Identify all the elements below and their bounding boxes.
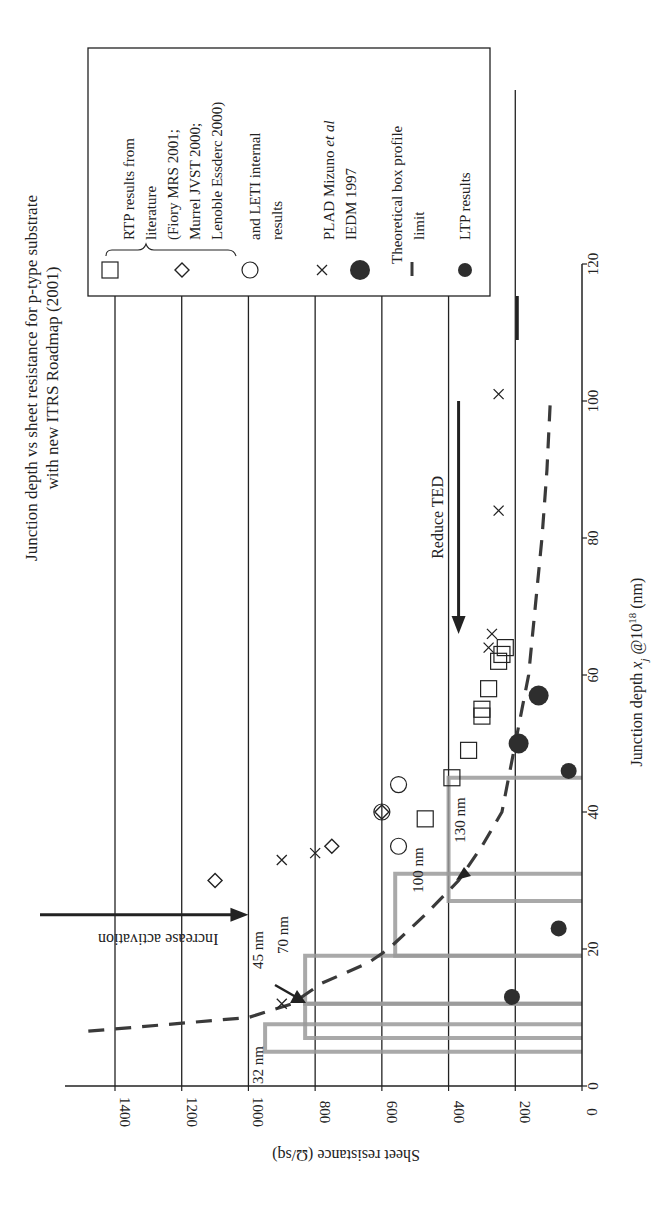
- resistance-tick-label: 1400: [117, 1097, 133, 1127]
- label-part: 18: [626, 612, 638, 624]
- resistance-axis-label: Sheet resistance (Ω/sq): [272, 1146, 420, 1164]
- resistance-tick-label: 600: [384, 1101, 400, 1124]
- axes: 0200400600800100012001400020406080100120…: [65, 253, 650, 1164]
- legend-box: [88, 48, 490, 296]
- arrowhead-icon: [230, 908, 248, 922]
- legend-text: Theoretical box profile: [389, 125, 405, 264]
- box-label: 32 nm: [250, 1046, 266, 1084]
- filled-circle-large-marker: [529, 686, 549, 706]
- itrs-box-profiles: 32 nm45 nm70 nm100 nm130 nm: [250, 778, 582, 1084]
- cross-marker: [487, 629, 497, 639]
- diamond-marker: [325, 839, 339, 853]
- label-part: Junction depth: [628, 669, 646, 767]
- cross-marker: [494, 389, 504, 399]
- data-points: [208, 389, 577, 1009]
- legend-text: limit: [411, 211, 427, 240]
- legend-text: PLAD Mizuno et al: [321, 120, 337, 240]
- legend-text: and LETI internal: [247, 133, 263, 240]
- depth-tick-label: 20: [585, 942, 601, 957]
- square-marker: [461, 742, 477, 758]
- resistance-tick-label: 0: [584, 1108, 600, 1116]
- depth-axis-label: Junction depth xj @1018 (nm): [626, 578, 650, 767]
- legend-filled-circle-large-icon: [350, 260, 370, 280]
- box-profile-45nm: [305, 1004, 582, 1038]
- box-label: 70 nm: [275, 916, 291, 954]
- legend-text-italic: et al: [321, 120, 337, 146]
- resistance-tick-label: 400: [451, 1101, 467, 1124]
- legend-filled-circle-small-icon: [458, 263, 472, 277]
- depth-tick-label: 80: [585, 531, 601, 546]
- annotations: Increase activationReduce TED: [40, 401, 471, 1003]
- depth-tick-label: 120: [585, 253, 601, 276]
- chart-title-line-2: with new ITRS Roadmap (2001): [43, 267, 62, 490]
- legend-text: IEDM 1997: [343, 167, 359, 240]
- label-part: x: [628, 662, 645, 670]
- filled-circle-small-marker: [551, 920, 567, 936]
- box-label: 45 nm: [250, 931, 266, 969]
- chart: 32 nm45 nm70 nm100 nm130 nm 020040060080…: [0, 0, 666, 1209]
- chart-title-line-1: Junction depth vs sheet resistance for p…: [22, 195, 41, 561]
- square-marker: [494, 646, 510, 662]
- legend: RTP results fromliterature(Fiory MRS 200…: [0, 48, 517, 340]
- depth-tick-label: 40: [585, 805, 601, 820]
- depth-tick-label: 100: [585, 390, 601, 413]
- filled-circle-small-marker: [561, 763, 577, 779]
- resistance-tick-label: 800: [317, 1101, 333, 1124]
- box-label: 100 nm: [410, 847, 426, 893]
- depth-tick-label: 0: [585, 1082, 601, 1090]
- legend-text: RTP results from: [121, 138, 137, 240]
- square-marker: [481, 681, 497, 697]
- square-marker: [474, 708, 490, 724]
- legend-text: literature: [143, 186, 159, 240]
- box-label: 130 nm: [452, 797, 468, 843]
- label-part: (nm): [628, 578, 646, 613]
- square-marker: [474, 701, 490, 717]
- resistance-tick-label: 1200: [184, 1097, 200, 1127]
- arrowhead-icon: [452, 616, 466, 634]
- filled-circle-large-marker: [509, 734, 529, 754]
- reduce-ted-label: Reduce TED: [429, 476, 446, 559]
- legend-text: (Fiory MRS 2001;: [165, 129, 182, 240]
- legend-text: Lenoble Essderc 2000): [209, 102, 226, 240]
- label-part: @10: [628, 624, 646, 659]
- cross-marker: [484, 643, 494, 653]
- legend-text: LTP results: [457, 172, 473, 240]
- cross-marker: [494, 506, 504, 516]
- resistance-tick-label: 200: [517, 1101, 533, 1124]
- legend-text: Murrel JVST 2000;: [187, 123, 203, 240]
- filled-circle-small-marker: [504, 989, 520, 1005]
- square-marker: [417, 811, 433, 827]
- depth-tick-label: 60: [585, 668, 601, 683]
- increase-activation-label: Increase activation: [98, 931, 218, 948]
- legend-text: results: [269, 201, 285, 240]
- diamond-marker: [208, 874, 222, 888]
- pointer-arrow: [275, 985, 296, 997]
- circle-marker: [391, 838, 407, 854]
- box-profile-70nm: [305, 956, 582, 1004]
- cross-marker: [277, 855, 287, 865]
- resistance-tick-label: 1000: [250, 1097, 266, 1127]
- legend-text-part: PLAD Mizuno: [321, 147, 337, 240]
- circle-marker: [391, 777, 407, 793]
- titles: Junction depth vs sheet resistance for p…: [22, 195, 62, 561]
